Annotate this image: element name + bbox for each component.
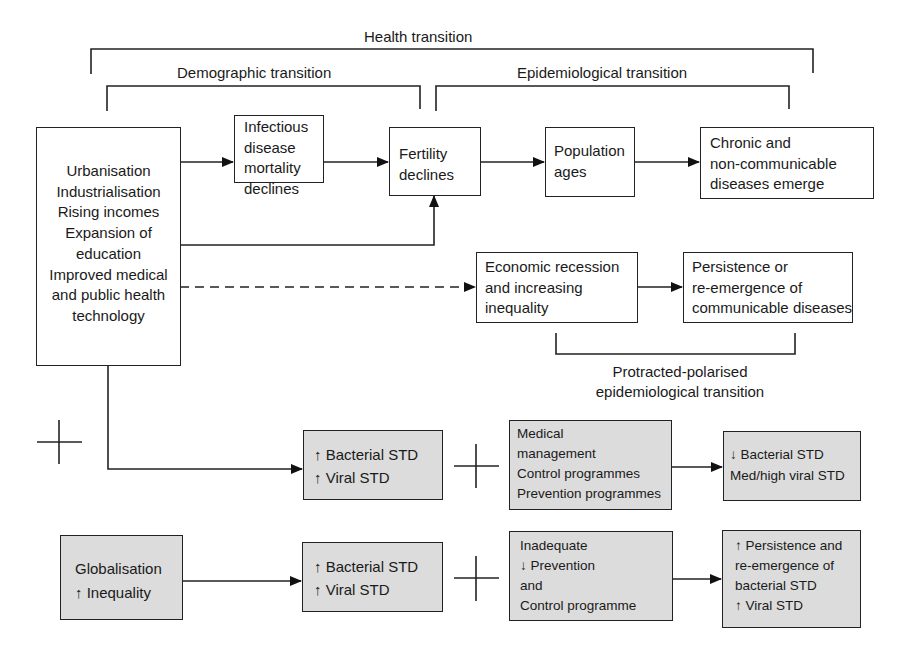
drivers-box: Urbanisation Industrialisation Rising in… <box>36 127 181 366</box>
protracted-bracket <box>556 333 795 354</box>
demographic-transition-label: Demographic transition <box>177 64 331 81</box>
health-transition-label: Health transition <box>364 28 472 45</box>
medical-management-box: Medical management Control programmes Pr… <box>509 420 672 510</box>
outcome-box-row2: ↑ Persistence and re-emergence of bacter… <box>722 530 861 628</box>
plus-sign-row1 <box>454 444 499 488</box>
outcome-box-row1: ↓ Bacterial STD Med/high viral STD <box>723 431 861 501</box>
epidemiological-transition-label: Epidemiological transition <box>517 64 687 81</box>
fertility-declines-box: Fertility declines <box>389 127 481 196</box>
globalisation-box: Globalisation ↑ Inequality <box>60 535 183 620</box>
economic-recession-box: Economic recession and increasing inequa… <box>476 252 638 323</box>
arrow-drivers-std1 <box>108 365 302 469</box>
plus-sign-left <box>37 420 82 464</box>
std-increase-box-row1: ↑ Bacterial STD ↑ Viral STD <box>303 430 443 500</box>
chronic-diseases-box: Chronic and non-communicable diseases em… <box>700 127 874 199</box>
persistence-communicable-box: Persistence or re-emergence of communica… <box>683 252 853 323</box>
inadequate-prevention-box: Inadequate ↓ Prevention and Control prog… <box>509 531 673 621</box>
plus-sign-row2 <box>454 556 499 601</box>
population-ages-box: Population ages <box>545 127 635 197</box>
demographic-bracket <box>107 86 420 111</box>
epidemiological-bracket <box>436 86 789 111</box>
protracted-label: Protracted-polarised epidemiological tra… <box>565 362 795 402</box>
infectious-mortality-box: Infectious disease mortality declines <box>234 115 324 183</box>
arrow-drivers-fertility <box>180 196 434 245</box>
std-increase-box-row2: ↑ Bacterial STD ↑ Viral STD <box>302 542 443 612</box>
